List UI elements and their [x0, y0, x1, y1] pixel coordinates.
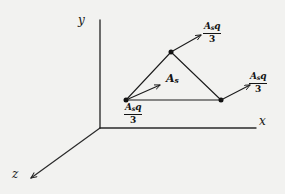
right-vector-label: Asq 3	[249, 72, 267, 94]
left-vector-num-main: A	[125, 102, 132, 112]
left-vector-numerator: Asq	[124, 103, 142, 114]
left-vector-arrow	[126, 85, 160, 100]
left-vector-num-tail: q	[135, 102, 141, 112]
y-axis-label: y	[78, 14, 85, 26]
surface-area-subscript: s	[175, 76, 179, 85]
surface-area-label: As	[166, 73, 179, 85]
x-axis-label: x	[259, 115, 266, 127]
vector-arrow-group	[126, 35, 250, 100]
apex-vector-arrow	[171, 35, 201, 52]
apex-vector-num-main: A	[204, 21, 211, 31]
right-vector-num-main: A	[250, 71, 257, 81]
apex-vector-numerator: Asq	[203, 22, 221, 33]
left-vector-label: Asq 3	[124, 103, 142, 125]
right-vector-arrow	[221, 85, 250, 100]
surface-area-symbol: A	[166, 72, 175, 85]
right-vector-denominator: 3	[249, 84, 267, 94]
right-vector-numerator: Asq	[249, 72, 267, 83]
figure-canvas: y x z As Asq 3 Asq 3 Asq 3	[0, 0, 285, 194]
z-axis-line	[31, 128, 100, 178]
apex-vector-num-tail: q	[214, 21, 220, 31]
apex-vector-label: Asq 3	[203, 22, 221, 44]
left-vector-denominator: 3	[124, 115, 142, 125]
diagram-svg	[0, 0, 285, 194]
right-vector-num-tail: q	[260, 71, 266, 81]
apex-vector-denominator: 3	[203, 34, 221, 44]
z-axis-label: z	[12, 168, 18, 180]
